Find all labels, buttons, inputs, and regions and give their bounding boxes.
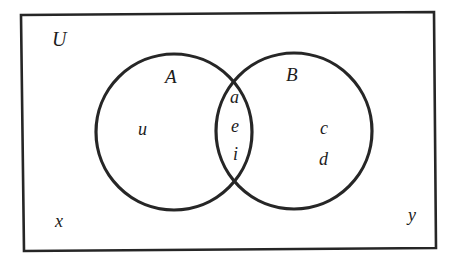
venn-diagram: U A B u a e i c d x y <box>0 0 464 261</box>
element-e: e <box>231 116 239 136</box>
set-a-label: A <box>163 66 177 87</box>
universe-rectangle <box>21 12 436 251</box>
set-b-label: B <box>286 64 298 85</box>
element-i: i <box>233 144 238 164</box>
element-x: x <box>54 211 63 231</box>
element-y: y <box>406 205 416 225</box>
element-a: a <box>230 87 239 107</box>
element-d: d <box>319 149 329 169</box>
universe-label: U <box>52 28 68 50</box>
element-c: c <box>320 118 328 138</box>
element-u: u <box>138 119 147 139</box>
